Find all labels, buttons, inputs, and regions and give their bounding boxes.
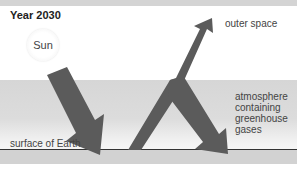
outer-space-label: outer space [225, 18, 277, 29]
atmosphere-label: atmosphere containing greenhouse gases [235, 91, 297, 135]
trapped-arrow-icon [168, 77, 228, 154]
surface-label: surface of Earth [10, 138, 81, 149]
